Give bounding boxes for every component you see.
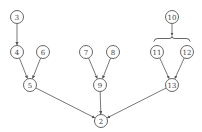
node-label: 13 <box>168 82 177 90</box>
node-7: 7 <box>80 46 93 59</box>
edge-8-to-9 <box>103 58 111 78</box>
braces-layer <box>154 24 190 42</box>
node-label: 3 <box>15 14 19 22</box>
edge-11-to-13 <box>160 58 169 79</box>
node-label: 7 <box>84 49 88 57</box>
node-10: 10 <box>166 11 179 24</box>
edge-5-to-2 <box>36 88 95 118</box>
node-label: 12 <box>183 49 192 57</box>
edge-13-to-2 <box>107 88 166 118</box>
edge-4-to-5 <box>19 58 27 78</box>
tree-diagram: 3465789101112132 <box>0 0 202 132</box>
node-label: 5 <box>28 82 32 90</box>
brace-10 <box>154 37 190 42</box>
node-label: 2 <box>99 118 103 126</box>
node-11: 11 <box>151 46 164 59</box>
edge-9-to-2 <box>100 91 101 114</box>
node-label: 6 <box>41 49 46 57</box>
node-4: 4 <box>11 46 24 59</box>
edge-6-to-5 <box>33 58 41 78</box>
node-9: 9 <box>94 79 107 92</box>
node-label: 11 <box>153 49 162 57</box>
node-5: 5 <box>24 79 37 92</box>
node-12: 12 <box>181 46 194 59</box>
node-8: 8 <box>107 46 120 59</box>
node-label: 8 <box>111 49 115 57</box>
node-label: 10 <box>168 14 177 22</box>
edge-12-to-13 <box>175 58 184 79</box>
node-6: 6 <box>37 46 50 59</box>
node-label: 9 <box>98 82 102 90</box>
node-label: 4 <box>15 49 20 57</box>
node-2: 2 <box>95 115 108 128</box>
node-3: 3 <box>11 11 24 24</box>
node-13: 13 <box>166 79 179 92</box>
nodes-layer: 3465789101112132 <box>11 11 194 128</box>
edge-7-to-9 <box>89 58 98 79</box>
edges-layer <box>17 24 184 118</box>
